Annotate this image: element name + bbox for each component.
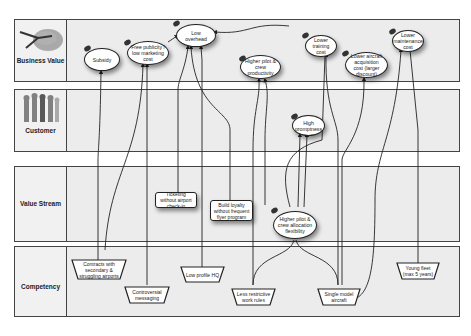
lane-label: Customer [15, 127, 66, 134]
lane-header-value-stream: Value Stream [15, 167, 67, 241]
node-contracts[interactable]: Contracts with secondary & struggling ai… [72, 260, 126, 279]
node-crew-flexibility[interactable]: Higher pilot & crew allocation flexibili… [273, 211, 317, 239]
node-low-profile-hq[interactable]: Low profile HQ [181, 267, 224, 282]
node-subsidy[interactable]: Subsidy [84, 48, 120, 71]
node-loyalty[interactable]: Build loyalty without frequent flyer pro… [210, 200, 253, 221]
lane-label: Value Stream [15, 200, 66, 207]
node-label: Single model aircraft [318, 291, 360, 303]
node-higher-productivity[interactable]: Higher pilot & crew productivity [240, 55, 281, 79]
node-label: Controversial messaging [125, 289, 169, 301]
lane-customer: Customer [14, 89, 460, 152]
node-high-promptness[interactable]: High promptness [292, 115, 325, 136]
airplane-icon [16, 22, 66, 58]
node-lower-acquisition[interactable]: Lower aircraft acquisition cost (larger … [345, 52, 388, 78]
node-low-overhead[interactable]: Low overhead [176, 24, 216, 47]
lane-header-competency: Competency [15, 247, 67, 316]
node-lower-training[interactable]: Lower training cost [305, 35, 337, 57]
node-label: Contracts with secondary & struggling ai… [72, 261, 126, 279]
node-ticketing[interactable]: Ticketing without airport check-in [155, 192, 197, 208]
node-lower-maintenance[interactable]: Lower maintenance cost [392, 30, 424, 52]
node-controversial[interactable]: Controversial messaging [125, 287, 169, 303]
node-work-rules[interactable]: Less restrictive work rules [232, 289, 275, 305]
node-young-fleet[interactable]: Young fleet (max 5 years) [397, 263, 439, 279]
node-label: Low profile HQ [182, 272, 223, 278]
lane-competency: Competency [14, 246, 460, 317]
lane-label: Competency [15, 283, 66, 290]
node-free-publicity[interactable]: Free publicity / low marketing cost [127, 41, 169, 65]
lane-header-customer: Customer [15, 90, 67, 151]
lane-label: Business Value [15, 57, 66, 64]
node-label: Young fleet (max 5 years) [397, 265, 439, 277]
lane-header-business-value: Business Value [15, 20, 67, 81]
people-icon [16, 92, 66, 126]
node-single-model[interactable]: Single model aircraft [318, 289, 360, 305]
node-label: Less restrictive work rules [232, 291, 275, 303]
